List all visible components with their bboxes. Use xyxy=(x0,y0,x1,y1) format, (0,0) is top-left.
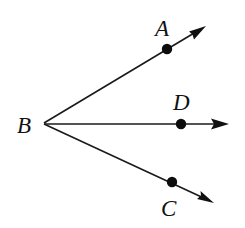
ray-bc-line xyxy=(44,124,208,200)
label-a: A xyxy=(153,16,170,41)
point-d xyxy=(176,119,186,129)
ray-bd: D xyxy=(44,90,229,130)
point-c xyxy=(167,177,177,187)
point-a xyxy=(162,44,172,54)
arrowhead-icon xyxy=(189,26,206,40)
ray-bc: C xyxy=(44,124,214,221)
label-d: D xyxy=(172,90,190,115)
rays-diagram: A D C B xyxy=(0,0,245,228)
arrowhead-icon xyxy=(197,191,214,203)
label-c: C xyxy=(161,196,177,221)
label-b: B xyxy=(17,113,31,138)
